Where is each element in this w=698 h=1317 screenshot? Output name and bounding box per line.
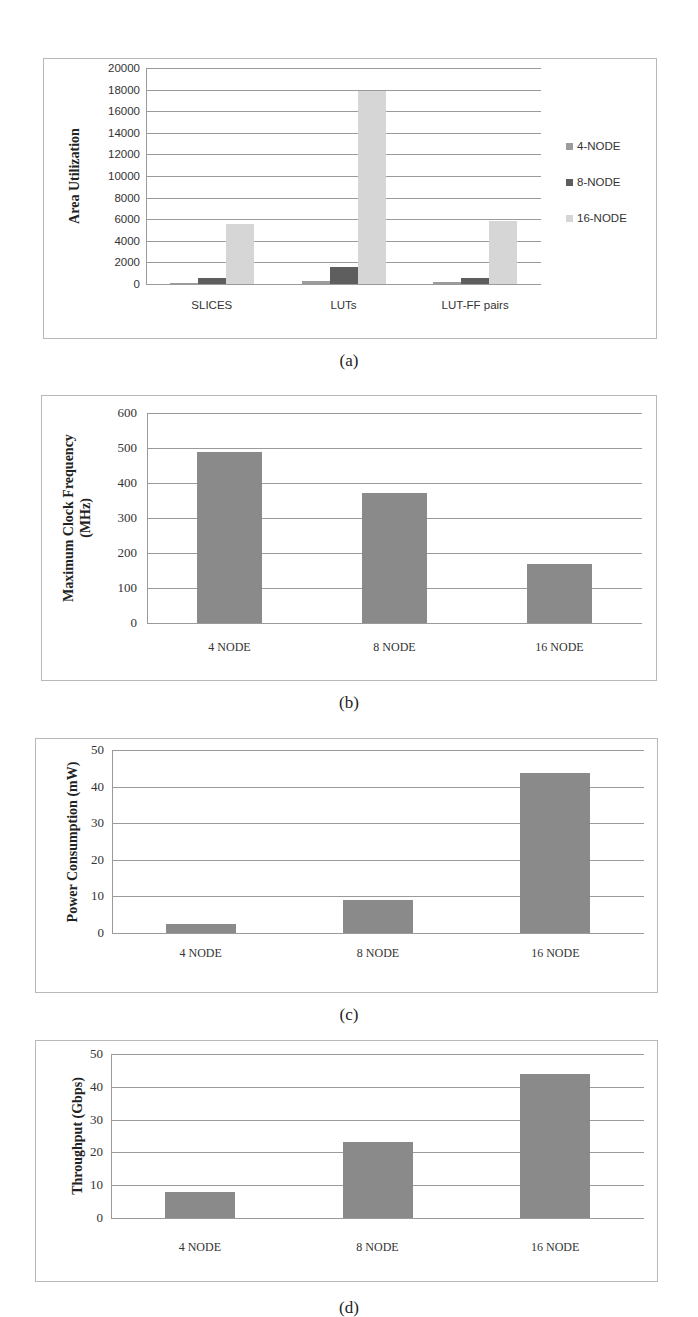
gridline <box>146 284 541 285</box>
gridline <box>146 111 541 112</box>
y-tick-label: 6000 <box>80 213 140 225</box>
bar-16-node <box>527 564 592 623</box>
y-tick-label: 200 <box>77 547 137 559</box>
gridline <box>147 623 642 624</box>
y-axis-line <box>111 1054 112 1218</box>
x-category-label: 16 NODE <box>495 1240 615 1255</box>
y-tick-label: 10 <box>44 890 104 902</box>
y-tick-label: 20000 <box>80 62 140 74</box>
x-category-label: 16 NODE <box>495 946 615 961</box>
gridline <box>146 154 541 155</box>
gridline <box>147 448 642 449</box>
gridline <box>112 933 644 934</box>
y-tick-label: 50 <box>44 744 104 756</box>
x-category-label: 4 NODE <box>170 640 290 655</box>
y-tick-label: 500 <box>77 442 137 454</box>
chart-a-caption: (a) <box>0 351 698 371</box>
y-tick-label: 40 <box>43 1081 103 1093</box>
y-axis-line <box>112 750 113 933</box>
bar-4-node <box>166 924 236 933</box>
y-tick-label: 0 <box>43 1212 103 1224</box>
y-tick-label: 40 <box>44 781 104 793</box>
legend-item-4-node: 4-NODE <box>566 140 620 152</box>
y-tick-label: 18000 <box>80 84 140 96</box>
bar-16-node-slices <box>226 224 254 284</box>
chart-b-ylabel-line1: Maximum Clock Frequency <box>60 413 77 623</box>
gridline <box>146 68 541 69</box>
y-tick-label: 30 <box>43 1114 103 1126</box>
x-category-label: 16 NODE <box>500 640 620 655</box>
y-tick-label: 16000 <box>80 105 140 117</box>
y-tick-label: 10 <box>43 1179 103 1191</box>
y-tick-label: 20 <box>44 854 104 866</box>
bar-16-node <box>520 1074 590 1218</box>
bar-8-node-slices <box>198 278 226 284</box>
gridline <box>147 413 642 414</box>
legend-swatch-8-node <box>566 179 573 186</box>
bar-16-node <box>520 773 590 933</box>
x-category-label: 8 NODE <box>318 1240 438 1255</box>
y-tick-label: 0 <box>80 278 140 290</box>
chart-c-caption: (c) <box>0 1005 698 1025</box>
legend-swatch-16-node <box>566 215 573 222</box>
chart-c-plot-area <box>112 750 644 933</box>
y-tick-label: 100 <box>77 582 137 594</box>
x-category-label: LUTs <box>284 299 404 311</box>
y-tick-label: 400 <box>77 477 137 489</box>
y-tick-label: 0 <box>77 617 137 629</box>
legend-label-8-node: 8-NODE <box>577 176 620 188</box>
legend-label-4-node: 4-NODE <box>577 140 620 152</box>
chart-d-caption: (d) <box>0 1298 698 1317</box>
bar-4-node-lut-ff-pairs <box>433 282 461 284</box>
x-category-label: 4 NODE <box>140 1240 260 1255</box>
y-tick-label: 12000 <box>80 148 140 160</box>
bar-16-node-lut-ff-pairs <box>489 221 517 284</box>
bar-8-node <box>362 493 427 623</box>
y-tick-label: 20 <box>43 1146 103 1158</box>
gridline <box>146 241 541 242</box>
gridline <box>112 750 644 751</box>
chart-b-caption: (b) <box>0 693 698 713</box>
y-tick-label: 10000 <box>80 170 140 182</box>
gridline <box>146 176 541 177</box>
gridline <box>146 90 541 91</box>
x-category-label: SLICES <box>152 299 272 311</box>
y-tick-label: 8000 <box>80 192 140 204</box>
bar-16-node-luts <box>358 91 386 284</box>
x-category-label: 4 NODE <box>141 946 261 961</box>
gridline <box>111 1218 644 1219</box>
legend-label-16-node: 16-NODE <box>577 212 627 224</box>
chart-d-plot-area <box>111 1054 644 1218</box>
x-category-label: 8 NODE <box>335 640 455 655</box>
bar-8-node <box>343 900 413 933</box>
bar-4-node-luts <box>302 281 330 284</box>
x-category-label: LUT-FF pairs <box>415 299 535 311</box>
legend-item-16-node: 16-NODE <box>566 212 627 224</box>
y-tick-label: 14000 <box>80 127 140 139</box>
chart-a-plot-area <box>146 68 541 284</box>
bar-4-node-slices <box>170 283 198 284</box>
bar-4-node <box>165 1192 235 1218</box>
y-tick-label: 50 <box>43 1048 103 1060</box>
gridline <box>146 262 541 263</box>
gridline <box>146 219 541 220</box>
bar-8-node <box>343 1142 413 1218</box>
bar-8-node-lut-ff-pairs <box>461 278 489 284</box>
y-tick-label: 300 <box>77 512 137 524</box>
x-category-label: 8 NODE <box>318 946 438 961</box>
y-tick-label: 4000 <box>80 235 140 247</box>
bar-8-node-luts <box>330 267 358 284</box>
legend-item-8-node: 8-NODE <box>566 176 620 188</box>
chart-b-plot-area <box>147 413 642 623</box>
chart-a-legend: 4-NODE 8-NODE 16-NODE <box>566 140 656 240</box>
gridline <box>146 198 541 199</box>
legend-swatch-4-node <box>566 143 573 150</box>
y-tick-label: 600 <box>77 407 137 419</box>
gridline <box>111 1054 644 1055</box>
y-tick-label: 2000 <box>80 256 140 268</box>
bar-4-node <box>197 452 262 623</box>
y-tick-label: 0 <box>44 927 104 939</box>
y-tick-label: 30 <box>44 817 104 829</box>
gridline <box>146 133 541 134</box>
